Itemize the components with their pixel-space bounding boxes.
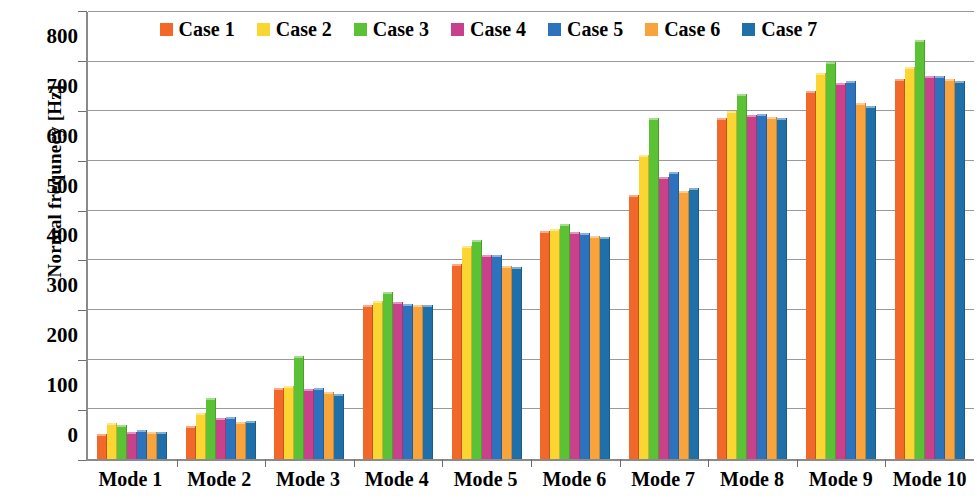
x-tick-label: Mode 4 (352, 468, 441, 491)
bar[interactable] (304, 389, 314, 459)
bar[interactable] (717, 118, 727, 459)
bar[interactable] (117, 425, 127, 459)
bar[interactable] (649, 118, 659, 459)
bar[interactable] (767, 117, 777, 459)
bar-groups (88, 12, 974, 459)
bar[interactable] (935, 76, 945, 459)
bar[interactable] (423, 305, 433, 459)
y-tick-label: 300 (4, 274, 78, 299)
bar[interactable] (236, 422, 246, 459)
bar[interactable] (580, 233, 590, 459)
bar[interactable] (502, 266, 512, 459)
bar[interactable] (216, 418, 226, 459)
bar[interactable] (452, 264, 462, 459)
bar[interactable] (570, 232, 580, 459)
bar[interactable] (274, 388, 284, 459)
x-tick-mark (885, 459, 886, 467)
x-tick-mark (708, 459, 709, 467)
bar[interactable] (866, 106, 876, 459)
bar[interactable] (186, 426, 196, 459)
bar[interactable] (107, 423, 117, 459)
bar[interactable] (334, 394, 344, 459)
bar[interactable] (206, 398, 216, 459)
bar[interactable] (590, 236, 600, 459)
bar[interactable] (403, 304, 413, 459)
y-tick-label: 0 (4, 423, 78, 448)
bar[interactable] (826, 62, 836, 459)
bar[interactable] (196, 413, 206, 459)
y-tick-label: 700 (4, 74, 78, 99)
plot-area (86, 12, 974, 461)
y-tick-label: 800 (4, 24, 78, 49)
y-axis-tick-labels: 0100200300400500600700800900 (0, 12, 78, 461)
bar[interactable] (727, 111, 737, 459)
bar[interactable] (600, 237, 610, 460)
bar[interactable] (669, 172, 679, 459)
bar[interactable] (757, 114, 767, 459)
bar[interactable] (806, 91, 816, 459)
bar[interactable] (472, 240, 482, 459)
bar[interactable] (737, 94, 747, 459)
x-tick-label: Mode 7 (619, 468, 708, 491)
y-tick-label: 500 (4, 174, 78, 199)
bar[interactable] (659, 177, 669, 459)
bar[interactable] (137, 430, 147, 459)
x-tick-mark (531, 459, 532, 467)
chart-figure: Normal frequnecy [Hz] 010020030040050060… (0, 0, 977, 502)
bar[interactable] (856, 103, 866, 459)
bar[interactable] (905, 67, 915, 459)
bar-group (354, 12, 443, 459)
bar[interactable] (226, 417, 236, 459)
bar[interactable] (373, 301, 383, 459)
bar[interactable] (363, 305, 373, 459)
bar-group (177, 12, 266, 459)
bar[interactable] (945, 79, 955, 459)
bar[interactable] (777, 118, 787, 459)
bar[interactable] (689, 188, 699, 459)
bar[interactable] (816, 73, 826, 459)
bar[interactable] (127, 432, 137, 459)
bar[interactable] (560, 224, 570, 459)
bar[interactable] (925, 76, 935, 459)
bar[interactable] (747, 115, 757, 459)
bar[interactable] (294, 356, 304, 459)
x-axis-tick-labels: Mode 1Mode 2Mode 3Mode 4Mode 5Mode 6Mode… (86, 468, 974, 491)
bar[interactable] (512, 267, 522, 459)
x-tick-mark (354, 459, 355, 467)
bar[interactable] (314, 388, 324, 459)
x-tick-label: Mode 1 (86, 468, 175, 491)
bar[interactable] (679, 191, 689, 459)
bar[interactable] (413, 305, 423, 459)
bar[interactable] (836, 83, 846, 459)
bar[interactable] (284, 386, 294, 460)
bar-group (531, 12, 620, 459)
x-tick-label: Mode 2 (175, 468, 264, 491)
bar[interactable] (955, 81, 965, 459)
bar[interactable] (639, 155, 649, 459)
bar[interactable] (482, 255, 492, 459)
bar[interactable] (324, 392, 334, 459)
bar-group (265, 12, 354, 459)
bar-group (620, 12, 709, 459)
x-tick-mark (797, 459, 798, 467)
bar[interactable] (629, 195, 639, 459)
bar[interactable] (157, 432, 167, 459)
bar[interactable] (383, 292, 393, 459)
x-tick-mark (442, 459, 443, 467)
bar[interactable] (895, 79, 905, 459)
x-tick-mark (620, 459, 621, 467)
bar[interactable] (246, 421, 256, 459)
bar[interactable] (462, 246, 472, 459)
bar[interactable] (492, 255, 502, 459)
bar[interactable] (846, 81, 856, 459)
bar[interactable] (540, 231, 550, 459)
x-tick-mark (265, 459, 266, 467)
bar[interactable] (97, 434, 107, 459)
x-tick-label: Mode 6 (530, 468, 619, 491)
y-tick-label: 400 (4, 224, 78, 249)
bar[interactable] (550, 229, 560, 459)
bar[interactable] (915, 40, 925, 459)
x-tick-mark (177, 459, 178, 467)
bar[interactable] (147, 432, 157, 459)
bar[interactable] (393, 302, 403, 459)
